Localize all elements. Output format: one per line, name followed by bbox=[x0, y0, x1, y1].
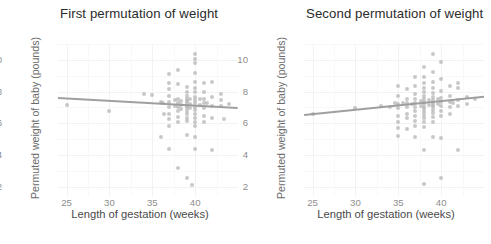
data-point bbox=[159, 135, 163, 139]
data-point bbox=[205, 101, 209, 105]
data-point bbox=[448, 84, 452, 88]
plot-area bbox=[304, 44, 484, 196]
data-point bbox=[422, 81, 426, 85]
y-axis-tick-label: 10 bbox=[0, 54, 2, 65]
data-point bbox=[431, 115, 435, 119]
data-point bbox=[202, 120, 206, 124]
data-point bbox=[176, 115, 180, 119]
data-point bbox=[413, 75, 417, 79]
data-point bbox=[193, 120, 197, 124]
data-point bbox=[439, 77, 443, 81]
data-point bbox=[176, 82, 180, 86]
data-point bbox=[193, 90, 197, 94]
data-point bbox=[193, 61, 197, 65]
y-axis-tick-label: 2 bbox=[0, 181, 2, 192]
data-point bbox=[439, 114, 443, 118]
gridline-horizontal bbox=[304, 187, 484, 188]
gridline-vertical-minor bbox=[131, 44, 132, 196]
data-point bbox=[405, 116, 409, 120]
data-point bbox=[167, 81, 171, 85]
y-axis-tick-label: 10 bbox=[208, 54, 248, 65]
data-point bbox=[396, 84, 400, 88]
data-point bbox=[202, 97, 206, 101]
data-point bbox=[396, 120, 400, 124]
gridline-vertical bbox=[67, 44, 68, 196]
y-axis-tick-label: 4 bbox=[208, 149, 248, 160]
data-point bbox=[422, 65, 426, 69]
y-axis-tick-label: 8 bbox=[0, 86, 2, 97]
data-point bbox=[167, 94, 171, 98]
gridline-vertical-minor bbox=[174, 44, 175, 196]
x-axis-tick-label: 40 bbox=[183, 197, 207, 208]
data-point bbox=[202, 81, 206, 85]
data-point bbox=[405, 87, 409, 91]
data-point bbox=[413, 109, 417, 113]
x-axis-tick-label: 35 bbox=[386, 197, 410, 208]
gridline-horizontal-minor bbox=[304, 44, 484, 45]
gridline-horizontal-minor bbox=[304, 171, 484, 172]
data-point bbox=[176, 120, 180, 124]
data-point bbox=[188, 106, 192, 110]
data-point bbox=[188, 97, 192, 101]
figure-root: First permutation of weight Permuted wei… bbox=[0, 0, 491, 244]
panel-title: First permutation of weight bbox=[60, 6, 238, 22]
data-point bbox=[167, 112, 171, 116]
x-axis-tick-label: 25 bbox=[301, 197, 325, 208]
data-point bbox=[396, 106, 400, 110]
x-axis-label: Length of gestation (weeks) bbox=[40, 208, 240, 220]
data-point bbox=[396, 126, 400, 130]
x-axis-tick-label: 35 bbox=[140, 197, 164, 208]
x-axis-label: Length of gestation (weeks) bbox=[286, 208, 486, 220]
gridline-vertical bbox=[152, 44, 153, 196]
gridline-vertical bbox=[109, 44, 110, 196]
gridline-horizontal bbox=[304, 155, 484, 156]
data-point bbox=[185, 119, 189, 123]
data-point bbox=[405, 127, 409, 131]
data-point bbox=[193, 80, 197, 84]
data-point bbox=[456, 148, 460, 152]
data-point bbox=[456, 81, 460, 85]
gridline-horizontal-minor bbox=[58, 44, 238, 45]
gridline-horizontal-minor bbox=[58, 171, 238, 172]
chart-panel-second-permutation: Second permutation of weight Permuted we… bbox=[246, 0, 491, 244]
data-point bbox=[176, 68, 180, 72]
y-axis-label: Permuted weight of baby (pounds) bbox=[29, 23, 41, 213]
gridline-horizontal bbox=[304, 92, 484, 93]
data-point bbox=[431, 70, 435, 74]
y-axis-label: Permuted weight of baby (pounds) bbox=[275, 23, 287, 213]
data-point bbox=[439, 176, 443, 180]
gridline-vertical bbox=[355, 44, 356, 196]
data-point bbox=[219, 98, 223, 102]
gridline-horizontal bbox=[304, 123, 484, 124]
data-point bbox=[413, 92, 417, 96]
data-point bbox=[439, 104, 443, 108]
data-point bbox=[431, 80, 435, 84]
data-point bbox=[167, 117, 171, 121]
data-point bbox=[185, 133, 189, 137]
data-point bbox=[422, 148, 426, 152]
data-point bbox=[190, 183, 194, 187]
data-point bbox=[210, 80, 214, 84]
data-point bbox=[176, 166, 180, 170]
gridline-vertical-minor bbox=[334, 44, 335, 196]
gridline-vertical bbox=[441, 44, 442, 196]
data-point bbox=[185, 85, 189, 89]
x-axis-tick-label: 25 bbox=[55, 197, 79, 208]
data-point bbox=[422, 125, 426, 129]
data-point bbox=[456, 86, 460, 90]
data-point bbox=[167, 105, 171, 109]
data-point bbox=[193, 52, 197, 56]
data-point bbox=[162, 112, 166, 116]
x-axis-tick-label: 30 bbox=[97, 197, 121, 208]
data-point bbox=[439, 109, 443, 113]
y-axis-tick-label: 8 bbox=[208, 86, 248, 97]
gridline-horizontal bbox=[304, 60, 484, 61]
gridline-vertical-minor bbox=[377, 44, 378, 196]
data-point bbox=[193, 135, 197, 139]
x-axis-tick-label: 30 bbox=[343, 197, 367, 208]
data-point bbox=[413, 124, 417, 128]
data-point bbox=[193, 124, 197, 128]
data-point bbox=[405, 112, 409, 116]
data-point bbox=[431, 120, 435, 124]
data-point bbox=[448, 112, 452, 116]
